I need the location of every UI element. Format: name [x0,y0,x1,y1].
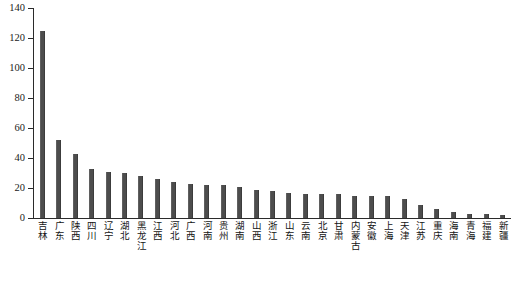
bar [254,190,259,219]
bar [500,215,505,218]
x-axis-label: 河北 [169,221,179,241]
bar [106,172,111,219]
y-axis-tick: 80 [28,98,33,99]
y-axis-tick-mark [28,38,33,39]
x-axis-label: 海南 [449,221,459,241]
bar [56,140,61,218]
bar [484,214,489,219]
x-axis-label: 云南 [300,221,310,241]
y-axis-tick-label: 20 [15,181,26,194]
y-axis-tick-label: 140 [9,1,25,14]
y-axis-tick-label: 120 [9,31,25,44]
y-axis-tick: 120 [28,38,33,39]
y-axis-tick-label: 60 [15,121,26,134]
y-axis-tick: 40 [28,158,33,159]
bar [319,194,324,218]
y-axis-tick-label: 40 [15,151,26,164]
x-axis-label: 北京 [317,221,327,241]
x-axis-label: 内蒙古 [350,221,360,251]
bar [434,209,439,218]
x-axis-label: 吉林 [37,221,47,241]
y-axis-tick-mark [28,158,33,159]
x-axis-label: 湖南 [235,221,245,241]
x-axis-label: 江西 [152,221,162,241]
y-axis-tick: 100 [28,68,33,69]
y-axis-tick-label: 0 [20,211,25,224]
bar [221,185,226,218]
x-axis-label: 广西 [185,221,195,241]
bar [385,196,390,219]
x-axis-label: 新疆 [498,221,508,241]
bar [188,184,193,219]
bar [352,196,357,219]
x-axis-label: 河南 [202,221,212,241]
bar [237,187,242,219]
x-axis-line [33,218,511,219]
bar [451,212,456,218]
bar [204,185,209,218]
y-axis-tick: 0 [28,218,33,219]
bar [270,191,275,218]
y-axis-tick-mark [28,188,33,189]
bar [286,193,291,219]
y-axis-tick-mark [28,218,33,219]
bar [155,179,160,218]
y-axis-tick: 20 [28,188,33,189]
bar-chart: 020406080100120140 吉林广东陕西四川辽宁湖北黑龙江江西河北广西… [0,0,515,295]
bar [89,169,94,219]
x-axis-label: 天津 [399,221,409,241]
x-axis-label: 黑龙江 [136,221,146,251]
x-axis-label: 江苏 [416,221,426,241]
x-axis-label: 上海 [383,221,393,241]
x-axis-labels: 吉林广东陕西四川辽宁湖北黑龙江江西河北广西河南贵州湖南山西浙江山东云南北京甘肃内… [34,221,511,295]
bar [73,154,78,219]
x-axis-label: 贵州 [218,221,228,241]
bar [336,194,341,218]
y-axis-tick-label: 80 [15,91,26,104]
bar [467,214,472,219]
bar [402,199,407,219]
bar [418,205,423,219]
x-axis-label: 湖北 [120,221,130,241]
x-axis-label: 山东 [284,221,294,241]
x-axis-label: 福建 [481,221,491,241]
x-axis-label: 重庆 [432,221,442,241]
y-axis-tick-mark [28,68,33,69]
y-axis-tick-mark [28,128,33,129]
x-axis-label: 陕西 [70,221,80,241]
x-axis-label: 四川 [87,221,97,241]
y-axis-tick-mark [28,8,33,9]
bar [122,173,127,218]
y-axis-tick-label: 100 [9,61,25,74]
x-axis-label: 辽宁 [103,221,113,241]
bar [369,196,374,219]
bar-series [34,8,511,218]
x-axis-label: 浙江 [268,221,278,241]
bar [138,176,143,218]
x-axis-label: 山西 [251,221,261,241]
y-axis-tick: 60 [28,128,33,129]
bar [303,194,308,218]
y-axis-tick: 140 [28,8,33,9]
x-axis-label: 青海 [465,221,475,241]
bar [40,31,45,219]
x-axis-label: 甘肃 [333,221,343,241]
x-axis-label: 广东 [54,221,64,241]
x-axis-label: 安徽 [366,221,376,241]
y-axis-tick-mark [28,98,33,99]
bar [171,182,176,218]
